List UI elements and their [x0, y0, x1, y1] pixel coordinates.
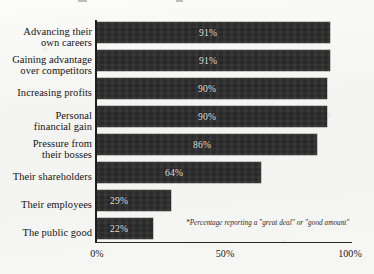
x-tick-label-50: 50%: [216, 248, 235, 259]
category-label: Personal financial gain: [34, 110, 92, 132]
bar-value-label: 90%: [198, 106, 216, 127]
chart-figure: Advancing their own careers Gaining adva…: [0, 0, 374, 274]
plot-area: Advancing their own careers Gaining adva…: [0, 0, 374, 274]
bar-value-label: 64%: [165, 162, 183, 183]
footnote-annotation: *Percentage reporting a "great deal" or …: [186, 219, 349, 227]
category-label: Pressure from their bosses: [33, 138, 92, 160]
category-label: Increasing profits: [17, 87, 92, 98]
bar-value-label: 29%: [110, 190, 128, 211]
x-tick-label-0: 0%: [90, 248, 104, 259]
category-label: The public good: [22, 227, 92, 238]
bar-value-label: 86%: [193, 134, 211, 155]
value-axis-line: [95, 242, 352, 243]
category-label: Gaining advantage over competitors: [12, 54, 92, 76]
bar-value-label: 22%: [110, 218, 128, 239]
category-label: Their employees: [21, 199, 92, 210]
category-label: Advancing their own careers: [23, 26, 92, 48]
bar-their-employees: [97, 190, 171, 211]
bar-value-label: 90%: [198, 78, 216, 99]
bar-value-label: 91%: [199, 50, 217, 71]
x-tick-label-100: 100%: [338, 248, 362, 259]
bar-value-label: 91%: [199, 22, 217, 43]
category-label: Their shareholders: [13, 171, 92, 182]
